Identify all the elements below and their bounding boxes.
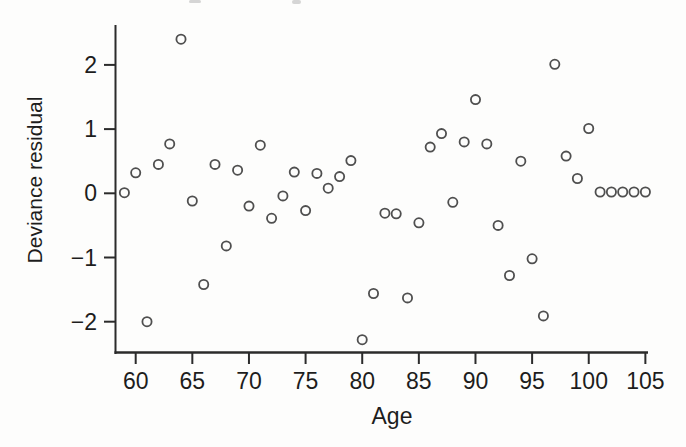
data-point <box>641 187 650 196</box>
y-tick-label: −1 <box>71 245 97 271</box>
data-point <box>596 187 605 196</box>
x-tick-label: 95 <box>519 368 545 394</box>
data-point <box>267 214 276 223</box>
data-point <box>437 129 446 138</box>
y-tick-label: 1 <box>84 116 97 142</box>
x-tick-label: 85 <box>406 368 432 394</box>
data-point <box>210 160 219 169</box>
data-point <box>392 209 401 218</box>
y-axis-title: Deviance residual <box>23 97 46 264</box>
data-point <box>573 174 582 183</box>
plot-canvas: 6065707580859095100105 210−1−2 Age Devia… <box>0 0 686 447</box>
data-point <box>154 160 163 169</box>
data-point <box>290 168 299 177</box>
data-point <box>199 280 208 289</box>
data-point <box>562 152 571 161</box>
data-point <box>403 293 412 302</box>
data-point <box>176 35 185 44</box>
data-point <box>494 221 503 230</box>
data-point <box>516 157 525 166</box>
y-tick-label: 0 <box>84 180 97 206</box>
x-tick-label: 80 <box>349 368 375 394</box>
data-point <box>460 137 469 146</box>
data-point <box>346 156 355 165</box>
data-point <box>505 271 514 280</box>
data-point <box>142 317 151 326</box>
data-point <box>165 139 174 148</box>
axes <box>104 25 648 364</box>
y-tick-labels: 210−1−2 <box>71 52 97 335</box>
data-point <box>358 335 367 344</box>
data-point <box>426 143 435 152</box>
x-tick-label: 75 <box>293 368 319 394</box>
data-point <box>244 202 253 211</box>
data-point <box>324 184 333 193</box>
data-point <box>369 289 378 298</box>
data-point <box>312 169 321 178</box>
x-tick-label: 65 <box>180 368 206 394</box>
data-point <box>528 254 537 263</box>
data-point <box>414 218 423 227</box>
data-point <box>380 209 389 218</box>
data-point <box>188 196 197 205</box>
x-tick-label: 60 <box>123 368 149 394</box>
data-point <box>131 168 140 177</box>
x-tick-labels: 6065707580859095100105 <box>123 368 665 394</box>
data-point <box>607 187 616 196</box>
data-point <box>618 187 627 196</box>
data-point <box>120 188 129 197</box>
x-tick-label: 70 <box>236 368 262 394</box>
data-points <box>120 35 650 345</box>
data-point <box>629 187 638 196</box>
data-point <box>335 172 344 181</box>
data-point <box>222 241 231 250</box>
y-tick-label: 2 <box>84 52 97 78</box>
x-tick-label: 105 <box>626 368 664 394</box>
data-point <box>584 124 593 133</box>
x-tick-label: 100 <box>570 368 608 394</box>
x-tick-label: 90 <box>463 368 489 394</box>
scatter-plot-figure: 6065707580859095100105 210−1−2 Age Devia… <box>0 0 686 447</box>
data-point <box>233 166 242 175</box>
data-point <box>550 60 559 69</box>
data-point <box>278 191 287 200</box>
data-point <box>471 95 480 104</box>
data-point <box>256 141 265 150</box>
data-point <box>482 139 491 148</box>
data-point <box>448 198 457 207</box>
data-point <box>539 311 548 320</box>
y-tick-label: −2 <box>71 309 97 335</box>
x-axis-title: Age <box>372 403 413 429</box>
data-point <box>301 206 310 215</box>
